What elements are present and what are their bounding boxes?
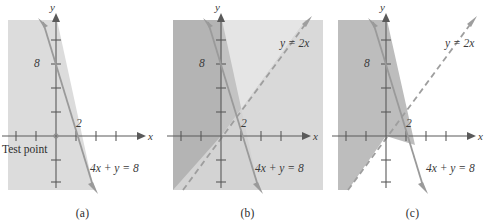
y-axis-label-c: y <box>380 2 385 13</box>
y-axis-label-b: y <box>215 2 220 13</box>
x-tick-label-2-c: 2 <box>406 118 412 130</box>
panel-caption-b: (b) <box>165 207 330 219</box>
y-axis-label-a: y <box>50 2 55 13</box>
line-equation-label-c: 4x + y = 8 <box>426 163 475 175</box>
line-arrow-down-c <box>418 182 428 194</box>
panel-caption-a: (a) <box>0 207 165 219</box>
panel-a-graph <box>0 0 165 221</box>
y-axis-arrow-b <box>217 13 225 22</box>
panel-b: y x 8 2 4x + y = 8 y = 2x (b) <box>165 0 330 221</box>
x-axis-label-b: x <box>313 131 318 142</box>
x-axis-label-c: x <box>478 131 483 142</box>
x-tick-label-2-b: 2 <box>241 118 247 130</box>
line-equation-label-2-c: y = 2x <box>445 38 474 50</box>
line-equation-label-b: 4x + y = 8 <box>255 163 304 175</box>
test-point-label-a: Test point <box>2 144 48 156</box>
x-tick-label-2-a: 2 <box>76 118 82 130</box>
x-axis-label-a: x <box>148 131 153 142</box>
panel-a: y x 8 2 Test point 4x + y = 8 (a) <box>0 0 165 221</box>
shaded-region-c <box>338 20 415 190</box>
y-tick-label-8-b: 8 <box>199 58 205 70</box>
x-axis-arrow-a <box>137 132 146 140</box>
line-equation-label-2-b: y = 2x <box>280 38 309 50</box>
figure-container: y x 8 2 Test point 4x + y = 8 (a) <box>0 0 494 221</box>
y-tick-label-8-a: 8 <box>34 58 40 70</box>
panel-c: y x 8 2 4x + y = 8 y = 2x (c) <box>330 0 494 221</box>
x-axis-arrow-c <box>467 132 476 140</box>
panel-b-graph <box>165 0 330 221</box>
panel-c-graph <box>330 0 494 221</box>
y-axis-arrow-c <box>382 13 390 22</box>
line-equation-label-a: 4x + y = 8 <box>90 163 139 175</box>
y-tick-label-8-c: 8 <box>364 58 370 70</box>
panel-caption-c: (c) <box>330 207 494 219</box>
y-axis-arrow-a <box>52 13 60 22</box>
